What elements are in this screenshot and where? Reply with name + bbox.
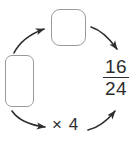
fraction-numerator: 16 (102, 58, 130, 76)
fraction: 16 24 (102, 58, 130, 98)
curved-arrow-up-right-icon (14, 29, 44, 53)
equivalent-fraction-diagram: 16 24 × 4 (0, 0, 136, 144)
blank-answer-box-tall (5, 55, 34, 107)
curved-arrow-down-right-icon (12, 111, 45, 127)
blank-answer-box-square (51, 9, 86, 46)
curved-arrow-down-right-icon (91, 27, 117, 49)
fraction-denominator: 24 (102, 80, 130, 98)
curved-arrow-up-right-icon (88, 111, 115, 130)
multiplier-label: × 4 (52, 116, 79, 134)
